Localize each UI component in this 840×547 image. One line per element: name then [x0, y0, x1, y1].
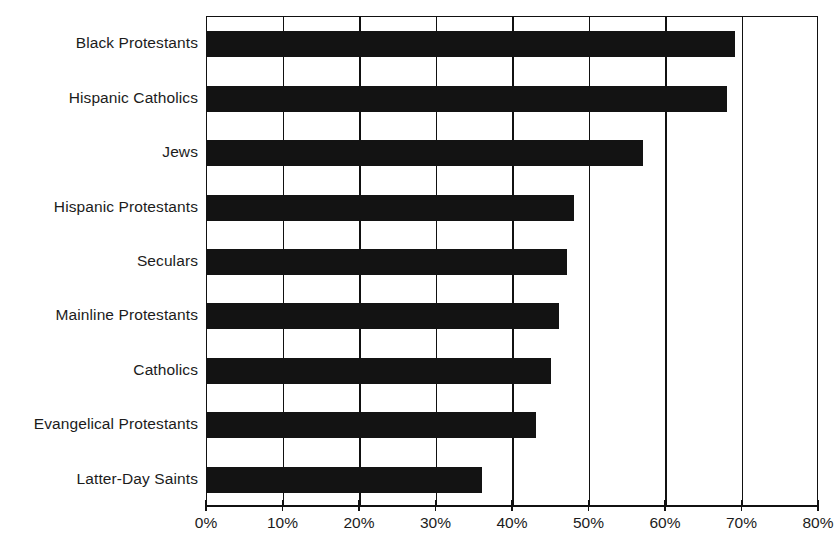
x-tick-mark [664, 500, 666, 511]
x-tick-label: 60% [635, 515, 695, 531]
bar [207, 195, 574, 221]
x-tick-mark [205, 500, 207, 511]
x-tick-label: 40% [482, 515, 542, 531]
x-tick-label: 70% [712, 515, 772, 531]
bar-chart: Black ProtestantsHispanic CatholicsJewsH… [0, 0, 840, 547]
bar [207, 140, 643, 166]
x-tick-label: 10% [253, 515, 313, 531]
x-tick-label: 0% [176, 515, 236, 531]
category-label: Mainline Protestants [0, 307, 198, 323]
clipped-bottom-caption [0, 539, 840, 547]
category-label: Black Protestants [0, 35, 198, 51]
x-tick-mark [511, 500, 513, 511]
category-label: Latter-Day Saints [0, 471, 198, 487]
bar [207, 249, 567, 275]
category-label: Jews [0, 144, 198, 160]
category-label: Evangelical Protestants [0, 416, 198, 432]
bar [207, 31, 735, 57]
plot-area [206, 16, 818, 506]
x-tick-mark [435, 500, 437, 511]
bar [207, 467, 482, 493]
bar [207, 303, 559, 329]
bar [207, 412, 536, 438]
x-tick-mark [282, 500, 284, 511]
category-label: Seculars [0, 253, 198, 269]
x-tick-mark [741, 500, 743, 511]
x-tick-label: 80% [788, 515, 840, 531]
bar [207, 86, 727, 112]
category-label: Catholics [0, 362, 198, 378]
x-tick-mark [358, 500, 360, 511]
x-tick-mark [588, 500, 590, 511]
x-tick-label: 50% [559, 515, 619, 531]
x-tick-mark [817, 500, 819, 511]
gridline-70 [742, 17, 744, 505]
bar [207, 358, 551, 384]
x-tick-label: 20% [329, 515, 389, 531]
category-label: Hispanic Protestants [0, 199, 198, 215]
x-tick-label: 30% [406, 515, 466, 531]
category-label: Hispanic Catholics [0, 90, 198, 106]
category-axis-labels: Black ProtestantsHispanic CatholicsJewsH… [0, 16, 198, 506]
